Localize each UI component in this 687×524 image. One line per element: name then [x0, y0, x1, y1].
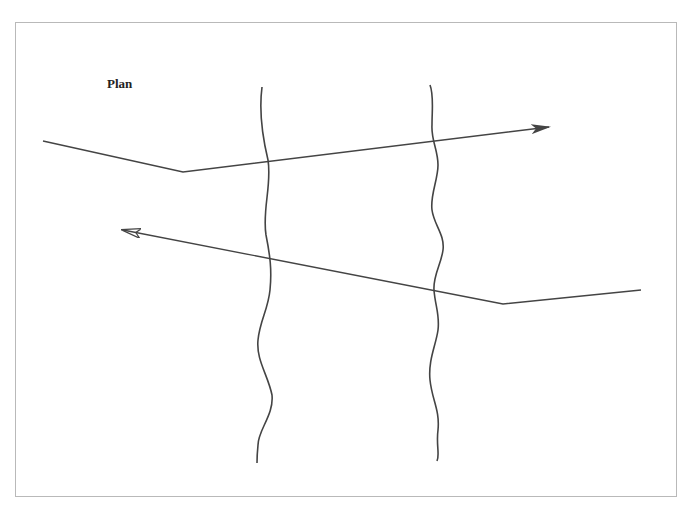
return-path — [123, 230, 641, 304]
outbound-path — [43, 127, 549, 172]
diagram-canvas — [0, 0, 687, 524]
left-wavy-boundary — [257, 87, 272, 463]
